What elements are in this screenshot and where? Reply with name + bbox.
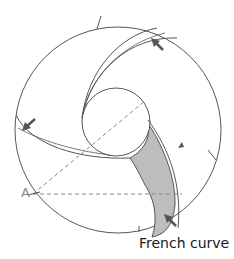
tick-right: [208, 150, 216, 160]
diagram-canvas: [0, 0, 234, 259]
triangle-marker-icon: [178, 142, 184, 148]
point-a-label: A: [21, 185, 30, 200]
inner-circle: [82, 88, 150, 156]
arrow-left-icon: [22, 119, 35, 131]
tick-top: [97, 16, 101, 29]
french-curve-label: French curve: [139, 235, 229, 251]
